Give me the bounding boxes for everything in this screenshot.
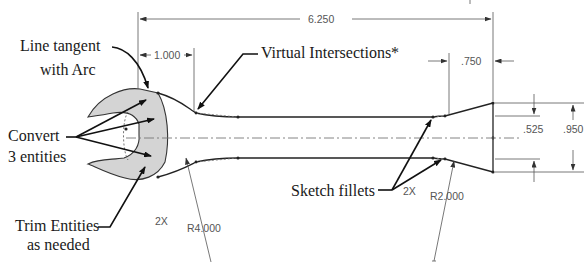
svg-text:Trim Entities: Trim Entities (15, 217, 99, 234)
dim-inner-width: .525 (495, 94, 544, 182)
dim-text-overall: 6.250 (308, 13, 334, 25)
dim-text-r2: R2.000 (430, 190, 464, 202)
dim-taper-length: .750 (428, 53, 514, 114)
callout-virtual-intersections: Virtual Intersections* (198, 44, 399, 109)
callout-sketch-fillets: Sketch fillets 2X (291, 120, 441, 199)
callout-line-tangent: Line tangent with Arc (20, 37, 148, 88)
dim-text-outer: .950 (563, 123, 584, 135)
dim-outer-width: .950 (495, 103, 584, 172)
svg-text:3 entities: 3 entities (8, 148, 66, 165)
wrench-head (88, 89, 168, 180)
svg-text:as needed: as needed (27, 236, 90, 253)
svg-text:with Arc: with Arc (40, 61, 96, 78)
dim-small-radius: R2.000 (430, 161, 464, 261)
dim-text-2x-left: 2X (155, 215, 168, 227)
svg-text:Sketch fillets: Sketch fillets (291, 182, 375, 199)
dim-text-r4: R4.000 (187, 222, 221, 234)
wrench-drawing: 6.250 1.000 .750 .525 .950 R4.000 2X (0, 0, 584, 275)
dim-text-2x-right: 2X (403, 185, 416, 197)
dim-large-radius: R4.000 2X (155, 158, 221, 262)
svg-text:Convert: Convert (8, 127, 60, 144)
callout-trim: Trim Entities as needed (15, 167, 145, 253)
dim-text-inner: .525 (523, 123, 544, 135)
sketch-points (124, 91, 494, 178)
svg-text:Virtual Intersections*: Virtual Intersections* (261, 44, 399, 61)
svg-text:Line tangent: Line tangent (20, 37, 101, 55)
dim-text-neck: 1.000 (154, 49, 180, 61)
dim-text-taper: .750 (461, 55, 482, 67)
